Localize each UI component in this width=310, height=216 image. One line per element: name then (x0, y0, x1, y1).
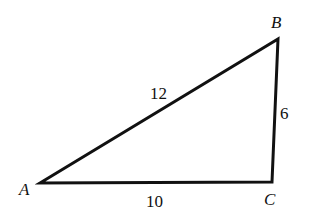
triangle-diagram: A B C 12 6 10 (0, 0, 310, 216)
side-length-ab: 12 (150, 84, 167, 103)
side-length-ac: 10 (146, 192, 163, 211)
vertex-label-c: C (264, 190, 276, 209)
vertex-label-a: A (18, 180, 30, 199)
vertex-label-b: B (271, 13, 282, 32)
triangle-abc (40, 39, 278, 183)
side-length-bc: 6 (280, 104, 289, 123)
